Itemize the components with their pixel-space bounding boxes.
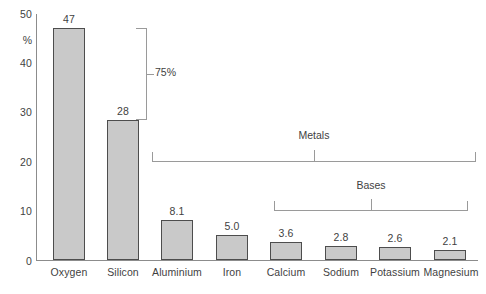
combined-bracket	[136, 28, 147, 120]
bar-sodium[interactable]	[325, 246, 357, 260]
bar-value-oxygen: 47	[53, 14, 85, 25]
bases-bracket-label: Bases	[331, 180, 411, 191]
x-axis-line	[36, 260, 478, 261]
bar-silicon[interactable]	[107, 120, 139, 260]
x-label-magnesium: Magnesium	[420, 266, 482, 278]
combined-bracket-stem	[147, 74, 154, 75]
bar-value-potassium: 2.6	[379, 233, 411, 244]
bases-bracket-stem	[371, 199, 372, 210]
bar-value-iron: 5.0	[216, 221, 248, 232]
bar-oxygen[interactable]	[53, 28, 85, 260]
bar-potassium[interactable]	[379, 247, 411, 260]
metals-bracket-stem	[314, 150, 315, 161]
metals-bracket-label: Metals	[274, 130, 354, 141]
bar-chart: 50 40 30 20 10 0 % 47 28 8.1 5.0 3.6 2.8…	[0, 0, 486, 294]
x-label-aluminium: Aluminium	[147, 266, 207, 278]
y-tick-10: 10	[4, 206, 32, 216]
bases-bracket-leg-right	[467, 201, 468, 211]
bar-iron[interactable]	[216, 235, 248, 260]
y-tick-50: 50	[4, 9, 32, 19]
x-label-oxygen: Oxygen	[39, 266, 99, 278]
bar-value-magnesium: 2.1	[434, 236, 466, 247]
y-axis-tick-labels: 50 40 30 20 10 0 %	[0, 0, 32, 294]
metals-bracket-line	[152, 161, 476, 162]
x-label-potassium: Potassium	[365, 266, 425, 278]
bar-magnesium[interactable]	[434, 250, 466, 260]
combined-bracket-arm-top	[136, 28, 147, 29]
x-label-sodium: Sodium	[311, 266, 371, 278]
metals-bracket-leg-left	[152, 152, 153, 162]
bar-value-sodium: 2.8	[325, 232, 357, 243]
y-tick-0: 0	[4, 256, 32, 266]
x-label-silicon: Silicon	[93, 266, 153, 278]
bar-value-calcium: 3.6	[270, 228, 302, 239]
bases-bracket	[274, 201, 468, 211]
y-tick-30: 30	[4, 107, 32, 117]
bases-bracket-leg-left	[274, 201, 275, 211]
y-tick-40: 40	[4, 58, 32, 68]
y-axis-line	[36, 14, 37, 261]
bar-aluminium[interactable]	[161, 220, 193, 260]
y-tick-20: 20	[4, 157, 32, 167]
y-axis-label: %	[4, 35, 32, 45]
bases-bracket-line	[274, 210, 468, 211]
bar-calcium[interactable]	[270, 242, 302, 260]
combined-bracket-label: 75%	[155, 67, 176, 78]
bar-value-silicon: 28	[107, 106, 139, 117]
bar-value-aluminium: 8.1	[161, 206, 193, 217]
combined-bracket-arm-bottom	[136, 119, 147, 120]
metals-bracket-leg-right	[475, 152, 476, 162]
x-label-calcium: Calcium	[256, 266, 316, 278]
metals-bracket	[152, 152, 476, 162]
x-label-iron: Iron	[202, 266, 262, 278]
